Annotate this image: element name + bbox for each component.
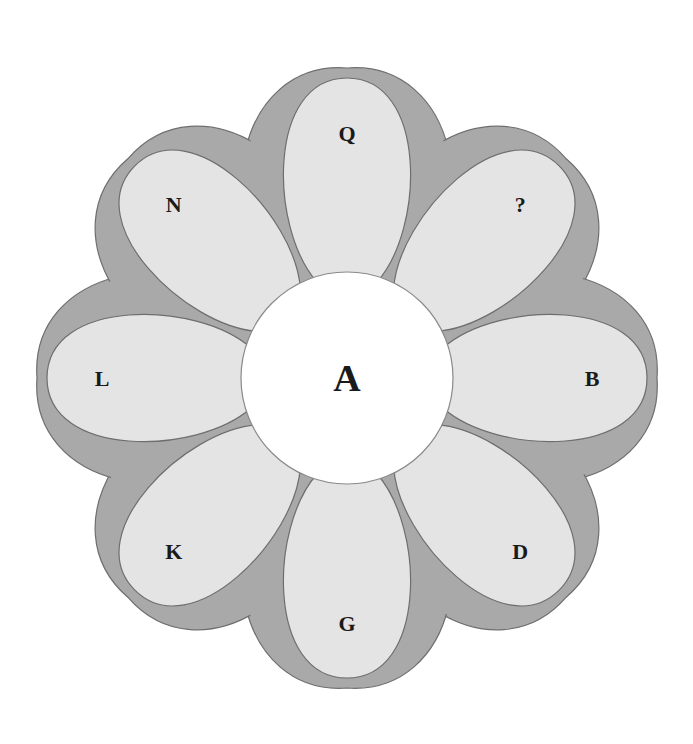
petal-label-right: B xyxy=(585,366,600,391)
petal-top xyxy=(283,78,410,282)
petal-label-top-left: N xyxy=(166,192,182,217)
petal-left xyxy=(47,314,251,441)
petal-label-top-right: ? xyxy=(515,192,526,217)
petal-label-bottom-left: K xyxy=(165,539,182,564)
petal-label-left: L xyxy=(95,366,110,391)
petal-label-bottom: G xyxy=(338,611,355,636)
petal-right xyxy=(443,314,647,441)
petal-label-bottom-right: D xyxy=(512,539,528,564)
center-label: A xyxy=(333,357,361,399)
petal-label-top: Q xyxy=(338,121,355,146)
center-circle: A xyxy=(241,272,453,484)
petal-bottom xyxy=(283,474,410,678)
flower-diagram: A Q?BDGKLN xyxy=(0,0,693,744)
